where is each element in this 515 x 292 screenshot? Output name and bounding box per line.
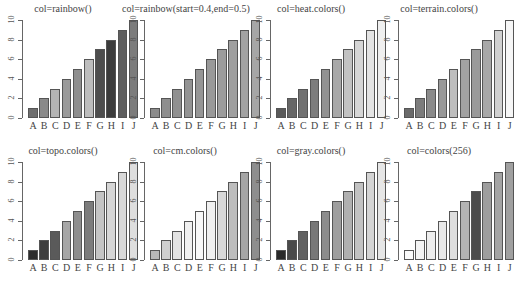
x-tick-label: E <box>73 262 83 273</box>
y-tick-label: 4 <box>7 214 16 226</box>
barplot-panel: col=gray.colors()0246810ABCDEFGHIJ <box>248 142 374 280</box>
y-axis: 0246810 <box>22 162 23 260</box>
x-tick-label: D <box>184 120 194 131</box>
bar-H <box>106 182 116 260</box>
x-tick-label: E <box>321 120 331 131</box>
y-tick <box>140 182 144 183</box>
x-tick-label: D <box>438 120 448 131</box>
x-tick-label: C <box>50 120 60 131</box>
bar-F <box>460 59 470 118</box>
x-tick-label: F <box>332 262 342 273</box>
x-tick-label: A <box>404 120 414 131</box>
y-tick <box>140 201 144 202</box>
y-tick <box>394 59 398 60</box>
bar-E <box>321 211 331 260</box>
y-tick-label: 4 <box>129 72 138 84</box>
bar-G <box>343 49 353 118</box>
y-tick <box>394 162 398 163</box>
bar-G <box>343 191 353 260</box>
y-tick-label: 2 <box>383 92 392 104</box>
y-tick <box>140 20 144 21</box>
x-tick-label: E <box>195 262 205 273</box>
y-tick-label: 2 <box>255 92 264 104</box>
bar-F <box>84 59 94 118</box>
bar-D <box>438 79 448 118</box>
x-tick-label: A <box>150 262 160 273</box>
y-tick-label: 6 <box>129 195 138 207</box>
bar-E <box>449 211 459 260</box>
y-tick-label: 0 <box>7 254 16 266</box>
x-tick-label: G <box>217 120 227 131</box>
bar-D <box>62 221 72 260</box>
bar-A <box>276 108 286 118</box>
plot-area <box>28 20 128 118</box>
plot-area <box>404 162 504 260</box>
x-tick-label: G <box>95 262 105 273</box>
x-tick-label: C <box>426 262 436 273</box>
y-axis: 0246810 <box>270 20 271 118</box>
bar-A <box>404 108 414 118</box>
x-tick-label: B <box>415 262 425 273</box>
bar-H <box>106 40 116 118</box>
y-tick-label: 8 <box>255 175 264 187</box>
y-axis: 0246810 <box>22 20 23 118</box>
panel-title: col=terrain.colors() <box>376 3 502 14</box>
x-tick-label: E <box>73 120 83 131</box>
x-tick-label: H <box>482 120 492 131</box>
y-tick <box>394 182 398 183</box>
y-tick-label: 8 <box>383 33 392 45</box>
x-tick-label: G <box>471 120 481 131</box>
y-tick <box>18 201 22 202</box>
y-tick <box>18 59 22 60</box>
y-axis: 0246810 <box>144 20 145 118</box>
y-tick-label: 2 <box>129 92 138 104</box>
x-tick-label: A <box>276 262 286 273</box>
y-tick <box>140 40 144 41</box>
y-tick-label: 10 <box>7 156 16 168</box>
y-tick-label: 10 <box>7 14 16 26</box>
y-tick <box>394 240 398 241</box>
bar-H <box>228 40 238 118</box>
y-tick-label: 0 <box>129 254 138 266</box>
bar-C <box>298 89 308 118</box>
y-tick <box>140 59 144 60</box>
x-tick-label: H <box>228 120 238 131</box>
x-tick-label: D <box>62 262 72 273</box>
x-tick-label: A <box>28 120 38 131</box>
y-tick <box>266 260 270 261</box>
y-tick-label: 0 <box>129 112 138 124</box>
y-tick-label: 8 <box>7 33 16 45</box>
bar-E <box>73 211 83 260</box>
bar-A <box>28 108 38 118</box>
bar-F <box>206 59 216 118</box>
bar-H <box>228 182 238 260</box>
bar-G <box>217 191 227 260</box>
y-tick <box>18 162 22 163</box>
x-tick-label: E <box>195 120 205 131</box>
bar-I <box>494 30 504 118</box>
x-tick-label: D <box>438 262 448 273</box>
x-tick-label: B <box>287 262 297 273</box>
bar-D <box>184 221 194 260</box>
x-tick-label: F <box>460 262 470 273</box>
bar-A <box>404 250 414 260</box>
x-tick-label: F <box>332 120 342 131</box>
y-tick-label: 4 <box>129 214 138 226</box>
y-tick <box>140 79 144 80</box>
y-tick <box>18 98 22 99</box>
x-tick-label: B <box>39 262 49 273</box>
y-tick-label: 6 <box>383 195 392 207</box>
bar-B <box>415 240 425 260</box>
y-tick-label: 4 <box>7 72 16 84</box>
y-tick <box>140 260 144 261</box>
y-tick-label: 2 <box>255 234 264 246</box>
bar-A <box>28 250 38 260</box>
bar-B <box>161 98 171 118</box>
x-tick-label: E <box>449 120 459 131</box>
y-axis: 0246810 <box>398 20 399 118</box>
y-tick-label: 2 <box>7 234 16 246</box>
x-tick-label: A <box>28 262 38 273</box>
x-tick-label: A <box>404 262 414 273</box>
x-tick-label: C <box>298 120 308 131</box>
y-tick <box>140 98 144 99</box>
